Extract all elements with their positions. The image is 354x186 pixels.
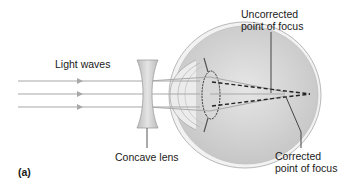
corrected-focus-label-line1: Corrected bbox=[275, 150, 321, 162]
uncorrected-focus-label-line2: point of focus bbox=[241, 20, 303, 32]
corrected-focus-label-line2: point of focus bbox=[275, 162, 337, 174]
concave-lens-label: Concave lens bbox=[115, 151, 179, 163]
concave-lens bbox=[137, 60, 158, 148]
light-waves-label: Light waves bbox=[55, 58, 110, 70]
panel-label: (a) bbox=[18, 166, 31, 178]
uncorrected-focus-label-line1: Uncorrected bbox=[241, 8, 298, 20]
